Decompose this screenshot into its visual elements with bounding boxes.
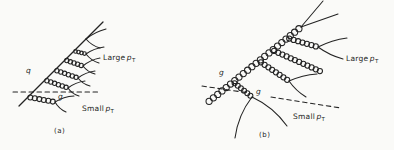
fork-prong-upper	[86, 47, 104, 54]
hadron-fork-b-3	[289, 74, 317, 97]
fork-prong-lower	[235, 97, 252, 138]
dashed-segment	[271, 97, 341, 108]
small-pt-text-b: Small	[293, 112, 315, 121]
gluon-coil-a-2	[65, 58, 84, 67]
fork-prong-lower	[318, 47, 343, 59]
gluon-loop	[236, 74, 242, 80]
gluon-coil-b-1	[287, 36, 319, 49]
gluon-coil-b-2	[272, 48, 323, 73]
momentum-subscript-b-large: T	[375, 58, 378, 64]
fork-prong-lower	[55, 102, 66, 112]
quark-label-a: q	[26, 67, 31, 75]
hadron-fork-top-a	[86, 29, 106, 48]
figure-quark-and-gluon-jets: q g LargepT SmallpT (a) g g LargepT Smal…	[0, 0, 394, 150]
large-pt-label-b: LargepT	[346, 55, 378, 65]
gluon-loop	[266, 65, 271, 70]
caption-b: (b)	[259, 132, 270, 139]
gluon-main-coil-b	[206, 26, 302, 105]
gluon-loop	[292, 29, 298, 35]
gluon-loop	[245, 67, 251, 73]
gluon-loop	[240, 71, 246, 77]
fork-prong-upper	[78, 71, 95, 78]
small-pt-label-a: SmallpT	[82, 105, 114, 115]
gluon-coil-a-4	[45, 79, 69, 90]
gluon-loop	[215, 91, 221, 97]
gluon-label-b: g	[219, 69, 224, 77]
hadron-fork-b-1	[318, 38, 347, 59]
gluon-loop	[281, 75, 286, 80]
gluon-coil-a-1	[74, 50, 87, 56]
gluon-coil-a-5	[28, 95, 56, 104]
hadron-fork-a-1	[86, 47, 104, 63]
momentum-subscript-a-large: T	[132, 57, 135, 63]
soft-gluon-label-b: g	[256, 88, 261, 96]
hadron-fork-a-4	[68, 81, 85, 96]
soft-gluon-label-a: g	[58, 93, 63, 101]
fork-prong-upper	[86, 29, 106, 39]
momentum-subscript-b-small: T	[322, 116, 325, 122]
large-pt-label-a: LargepT	[103, 54, 135, 64]
fork-prong-upper	[318, 38, 347, 47]
caption-a: (a)	[54, 128, 65, 135]
large-pt-text-b: Large	[346, 54, 368, 63]
pt-cutoff-dashed-line-b	[202, 86, 341, 108]
fork-prong-upper	[252, 97, 287, 126]
gluon-loop	[270, 46, 276, 52]
gluon-coil-b-3	[258, 60, 289, 83]
gluon-coil-a-3	[55, 69, 79, 80]
gluon-loop	[210, 95, 216, 101]
large-pt-text-a: Large	[103, 53, 125, 62]
hadron-fork-top-b	[301, 1, 338, 27]
gluon-loop	[206, 98, 212, 104]
gluon-loop	[279, 39, 285, 45]
fork-prong-lower	[86, 39, 100, 48]
small-pt-text-a: Small	[82, 104, 104, 113]
fork-prong-lower	[289, 81, 306, 97]
gluon-loop	[273, 70, 278, 75]
momentum-subscript-a-small: T	[111, 108, 114, 114]
gluon-loop	[249, 64, 255, 70]
small-pt-label-b: SmallpT	[293, 113, 325, 123]
fork-prong-upper	[289, 74, 317, 81]
gluon-loop	[262, 53, 268, 59]
